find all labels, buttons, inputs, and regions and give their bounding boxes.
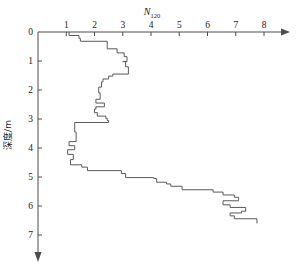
y-tick-label-0: 0 xyxy=(28,27,33,37)
y-tick-label-2: 2 xyxy=(28,85,33,95)
x-tick-label-3: 3 xyxy=(120,20,125,30)
n120-data-step-curve xyxy=(68,32,257,223)
y-axis-arrow-icon xyxy=(34,252,41,262)
x-tick-label-6: 6 xyxy=(205,20,210,30)
x-axis-tick-labels: 12345678 xyxy=(64,20,267,30)
x-tick-label-2: 2 xyxy=(92,20,97,30)
x-axis-ticks xyxy=(66,32,264,36)
x-axis-title-subscript: 120 xyxy=(150,12,160,19)
y-tick-label-5: 5 xyxy=(28,172,33,182)
x-tick-label-5: 5 xyxy=(177,20,182,30)
x-tick-label-4: 4 xyxy=(149,20,154,30)
n120-depth-step-chart: 12345678 01234567 N120 深度/m xyxy=(0,0,301,270)
y-tick-label-4: 4 xyxy=(28,143,33,153)
x-axis-title: N120 xyxy=(143,6,160,19)
x-tick-label-8: 8 xyxy=(262,20,267,30)
x-tick-label-7: 7 xyxy=(233,20,238,30)
y-tick-label-6: 6 xyxy=(28,201,33,211)
y-tick-label-7: 7 xyxy=(28,230,33,240)
y-axis-title: 深度/m xyxy=(2,120,13,150)
y-axis-ticks xyxy=(38,61,42,235)
x-tick-label-1: 1 xyxy=(64,20,69,30)
y-axis-tick-labels: 01234567 xyxy=(28,27,33,240)
x-axis-group: 12345678 xyxy=(38,20,290,37)
y-tick-label-3: 3 xyxy=(28,114,33,124)
chart-container: 12345678 01234567 N120 深度/m xyxy=(0,0,301,270)
y-tick-label-1: 1 xyxy=(28,56,33,66)
y-axis-group: 01234567 xyxy=(28,27,42,262)
x-axis-arrow-icon xyxy=(281,28,290,35)
